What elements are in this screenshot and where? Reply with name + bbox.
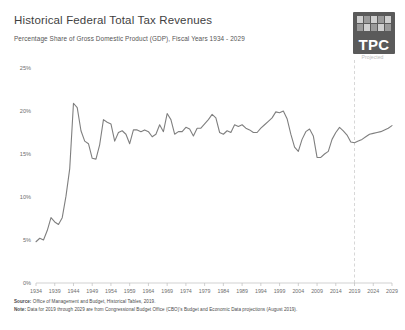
note-footnote: Note: Data for 2019 through 2029 are fro… (14, 307, 297, 312)
x-axis-tick-label: 1989 (236, 288, 248, 294)
y-axis-tick-label: 10% (20, 194, 31, 200)
chart-area: 0%5%10%15%20%25% 19341939194419491954195… (0, 0, 405, 330)
y-axis-tick-label: 5% (23, 237, 31, 243)
note-label: Note: (14, 307, 26, 312)
x-axis-tick-label: 1959 (124, 288, 136, 294)
y-axis-tick-label: 15% (20, 151, 31, 157)
x-axis-tick-label: 1974 (180, 288, 192, 294)
x-axis-tick-label: 1969 (161, 288, 173, 294)
source-footnote: Source: Office of Management and Budget,… (14, 299, 155, 304)
source-label: Source: (14, 299, 31, 304)
x-axis-tick-label: 1944 (68, 288, 80, 294)
x-axis-tick-label: 2029 (386, 288, 398, 294)
y-axis-tick-label: 20% (20, 108, 31, 114)
x-axis-tick-label: 1984 (217, 288, 229, 294)
x-axis-tick-label: 1979 (199, 288, 211, 294)
note-text: Data for 2019 through 2029 are from Cong… (27, 307, 297, 312)
x-axis: 1934193919441949195419591964196919741979… (30, 283, 398, 294)
x-axis-tick-label: 1964 (143, 288, 155, 294)
y-axis-tick-label: 25% (20, 65, 31, 71)
x-axis-tick-label: 1934 (30, 288, 42, 294)
x-axis-tick-label: 2004 (292, 288, 304, 294)
data-series-line (36, 103, 392, 241)
x-axis-tick-label: 1994 (255, 288, 267, 294)
y-axis-tick-label: 0% (23, 280, 31, 286)
x-axis-tick-label: 2009 (311, 288, 323, 294)
x-axis-tick-label: 1949 (86, 288, 98, 294)
tax-revenue-line-chart: 0%5%10%15%20%25% 19341939194419491954195… (0, 0, 405, 330)
projected-label: Projected (362, 54, 384, 60)
x-axis-tick-label: 1999 (274, 288, 286, 294)
x-axis-tick-label: 1939 (49, 288, 61, 294)
x-axis-tick-label: 2024 (367, 288, 379, 294)
x-axis-tick-label: 2014 (330, 288, 342, 294)
x-axis-tick-label: 1954 (105, 288, 117, 294)
y-axis-ticks: 0%5%10%15%20%25% (20, 65, 31, 286)
source-text: Office of Management and Budget, Histori… (33, 299, 156, 304)
x-axis-tick-label: 2019 (349, 288, 361, 294)
